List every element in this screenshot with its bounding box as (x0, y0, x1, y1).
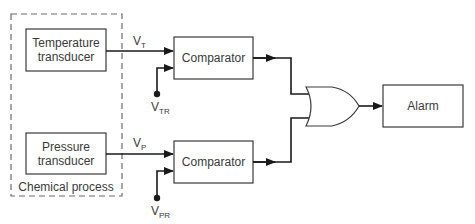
temperature-transducer-label-line2: transducer (38, 50, 95, 64)
alarm-block: Alarm (383, 85, 463, 127)
temperature-transducer-label-line1: Temperature (32, 36, 100, 50)
pressure-transducer-label-line2: transducer (38, 154, 95, 168)
temperature-transducer-block: Temperature transducer (26, 29, 106, 71)
vpr-reference-line (157, 171, 173, 198)
comparator-1-block: Comparator (174, 37, 253, 79)
pressure-transducer-label-line1: Pressure (42, 140, 90, 154)
block-diagram: Chemical process Temperature transducer … (0, 0, 475, 224)
vtr-label: VTR (151, 100, 170, 116)
pressure-transducer-block: Pressure transducer (26, 133, 106, 174)
alarm-label: Alarm (407, 99, 438, 113)
comparator-2-output-wire (253, 118, 310, 162)
chemical-process-label: Chemical process (18, 180, 113, 194)
vpr-label: VPR (151, 204, 170, 220)
comparator-2-label: Comparator (182, 155, 245, 169)
vp-label: VP (133, 136, 146, 152)
comparator-1-output-wire (253, 58, 310, 94)
comparator-1-label: Comparator (182, 51, 245, 65)
vt-label: VT (133, 34, 146, 50)
comparator-2-block: Comparator (174, 141, 253, 183)
vpr-terminal-dot (154, 195, 160, 201)
or-gate-symbol (306, 87, 359, 126)
vtr-reference-line (157, 68, 173, 94)
vtr-terminal-dot (154, 91, 160, 97)
